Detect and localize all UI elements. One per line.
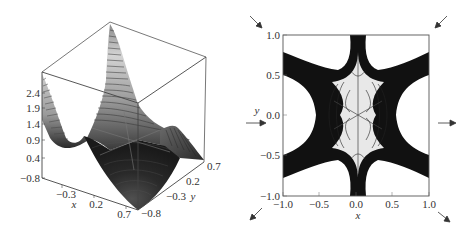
z-tick: 0.4	[26, 152, 40, 164]
z-tick: 2.4	[26, 87, 40, 99]
x-tick: 1.0	[422, 198, 436, 210]
arrow-top-left-icon	[250, 16, 262, 28]
y-tick: 1.0	[266, 29, 280, 41]
y-tick: −0.8	[141, 207, 161, 219]
x-axis-label: x	[355, 209, 361, 221]
x-tick: 0.5	[385, 198, 399, 210]
z-axis-tick-labels: 2.4 1.9 1.4 0.9 0.4 −0.8	[20, 87, 40, 184]
y-tick: −0.3	[166, 190, 186, 202]
y-tick: 0.2	[186, 175, 200, 187]
z-tick: 1.9	[26, 102, 40, 114]
arrow-bottom-right-icon	[438, 212, 450, 222]
x-axis-label: x	[71, 198, 77, 210]
surface-left-sheet	[42, 74, 88, 148]
x-tick: −1.0	[273, 198, 293, 210]
z-tick: −0.8	[20, 172, 40, 184]
figure: 2.4 1.9 1.4 0.9 0.4 −0.8 −0.3 0.2 0.7 x …	[0, 0, 468, 234]
arrow-bottom-left-icon	[250, 208, 262, 220]
z-tick: 1.4	[26, 118, 40, 130]
arrow-top-right-icon	[435, 16, 447, 28]
y-tick: −0.5	[260, 149, 280, 161]
y-axis-label: y	[254, 104, 260, 116]
arrow-left-icon	[246, 120, 266, 126]
contour-plot: 1.0 0.5 0.0 −0.5 −1.0 y −1.0 −0.5 0.0 0.…	[246, 16, 456, 222]
y-tick: 0.7	[207, 160, 221, 172]
y-tick: 0.5	[266, 69, 280, 81]
y-axis-tick-labels: 1.0 0.5 0.0 −0.5 −1.0	[260, 29, 280, 202]
x-tick: 0.7	[117, 208, 131, 220]
z-tick: 0.9	[26, 134, 40, 146]
y-axis-label: y	[190, 190, 196, 202]
x-tick: 0.2	[89, 198, 103, 210]
surface-plot-3d: 2.4 1.9 1.4 0.9 0.4 −0.8 −0.3 0.2 0.7 x …	[20, 22, 221, 220]
arrow-right-icon	[438, 120, 456, 126]
x-tick: −0.5	[309, 198, 329, 210]
y-tick: 0.0	[266, 109, 280, 121]
